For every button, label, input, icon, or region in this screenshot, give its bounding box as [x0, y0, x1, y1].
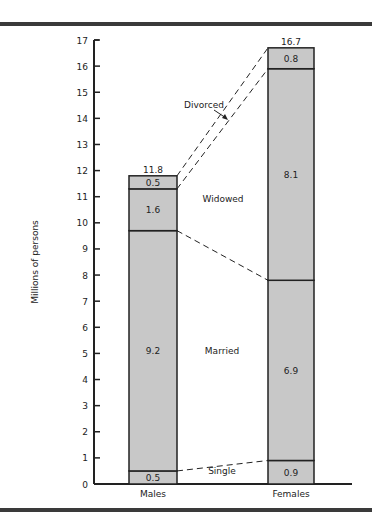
y-tick-label: 11 — [77, 192, 88, 202]
y-tick-label: 15 — [77, 88, 88, 98]
segment-value-label: 1.6 — [146, 205, 161, 215]
annotation-married: Married — [205, 346, 239, 356]
y-tick-label: 14 — [77, 114, 89, 124]
y-tick-label: 6 — [82, 323, 88, 333]
divorced-leader-arrowhead — [222, 114, 228, 120]
stacked-bar-chart: 01234567891011121314151617Millions of pe… — [0, 0, 372, 527]
y-tick-label: 0 — [82, 480, 88, 490]
y-tick-label: 13 — [77, 140, 88, 150]
y-tick-label: 5 — [82, 349, 88, 359]
y-tick-label: 16 — [77, 62, 89, 72]
y-tick-label: 8 — [82, 271, 88, 281]
annotation-widowed: Widowed — [202, 194, 243, 204]
y-axis-label: Millions of persons — [30, 220, 40, 304]
segment-value-label: 0.5 — [146, 178, 160, 188]
bar-total-label: 11.8 — [143, 165, 163, 175]
dashed-connector — [177, 48, 268, 176]
y-tick-label: 17 — [77, 36, 88, 46]
y-tick-label: 1 — [82, 453, 88, 463]
segment-value-label: 0.8 — [284, 54, 299, 64]
segment-value-label: 6.9 — [284, 366, 299, 376]
segment-value-label: 0.5 — [146, 473, 160, 483]
y-tick-label: 4 — [82, 375, 88, 385]
y-tick-label: 3 — [82, 401, 88, 411]
y-tick-label: 7 — [82, 297, 88, 307]
y-tick-label: 10 — [77, 218, 89, 228]
segment-value-label: 9.2 — [146, 346, 160, 356]
dashed-connector — [177, 69, 268, 189]
y-tick-label: 9 — [82, 244, 88, 254]
bar-total-label: 16.7 — [281, 37, 301, 47]
segment-value-label: 8.1 — [284, 170, 298, 180]
segment-value-label: 0.9 — [284, 468, 299, 478]
y-tick-label: 12 — [77, 166, 88, 176]
annotation-divorced: Divorced — [184, 100, 224, 110]
x-category-label: Females — [272, 489, 310, 499]
annotation-single: Single — [208, 466, 236, 476]
x-category-label: Males — [140, 489, 166, 499]
dashed-connector — [177, 231, 268, 281]
y-tick-label: 2 — [82, 427, 88, 437]
